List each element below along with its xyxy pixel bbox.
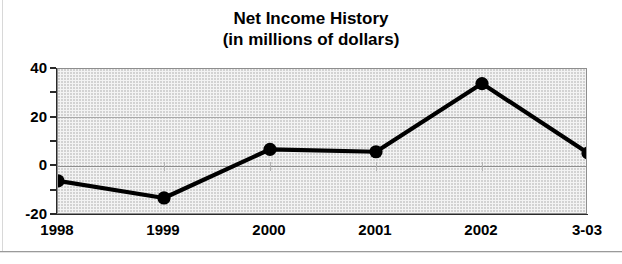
data-point-2001	[369, 145, 382, 158]
y-tick-minor	[50, 140, 56, 142]
y-tick-major	[50, 213, 56, 215]
x-axis-line	[57, 214, 588, 215]
series-plot	[58, 69, 587, 214]
x-tick-label-1998: 1998	[12, 221, 102, 239]
data-point-2000	[263, 143, 276, 156]
x-tick-label-1999: 1999	[118, 221, 208, 239]
y-tick-label: 0	[3, 157, 47, 172]
series-line-net-income	[58, 84, 587, 198]
y-tick-major	[50, 116, 56, 118]
y-tick-minor	[50, 91, 56, 93]
data-point-1999	[157, 191, 170, 204]
data-point-1998	[57, 174, 65, 187]
chart-figure: Net Income History (in millions of dolla…	[0, 0, 622, 264]
x-tick-label-2000: 2000	[224, 221, 314, 239]
y-tick-label: 40	[3, 60, 47, 75]
y-tick-major	[50, 67, 56, 69]
chart-title: Net Income History (in millions of dolla…	[0, 8, 622, 50]
plot-area	[57, 68, 587, 214]
series-markers	[57, 77, 587, 205]
x-tick-label-3-03: 3-03	[542, 221, 622, 239]
y-tick-minor	[50, 189, 56, 191]
y-tick-label: 20	[3, 109, 47, 124]
x-axis-labels: 199819992000200120023-03	[0, 221, 622, 245]
y-tick-label: -20	[3, 206, 47, 221]
chart-title-line-1: Net Income History	[0, 8, 622, 29]
y-tick-major	[50, 164, 56, 166]
data-point-2002	[475, 77, 488, 90]
scan-rule-artifact-soft	[0, 252, 622, 253]
x-tick-label-2001: 2001	[330, 221, 420, 239]
chart-title-line-2: (in millions of dollars)	[0, 29, 622, 50]
x-tick-label-2002: 2002	[436, 221, 526, 239]
